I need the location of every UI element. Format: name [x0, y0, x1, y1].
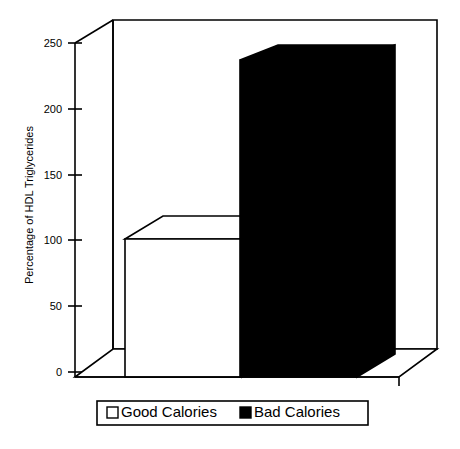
bar-bad-calories-side-face	[357, 45, 395, 377]
bar-good-calories-front-face	[125, 239, 242, 377]
y-tick-label-0: 0	[56, 366, 62, 378]
legend-item-good-calories[interactable]: Good Calories	[107, 403, 217, 420]
bar-chart-3d: 250 200 150 100 50 0 Percentage of HDL T…	[0, 0, 460, 449]
bar-bad-calories[interactable]	[240, 45, 395, 377]
y-axis-title: Percentage of HDL Triglycerides	[23, 126, 35, 284]
legend: Good Calories Bad Calories	[97, 401, 368, 425]
chart-figure: 250 200 150 100 50 0 Percentage of HDL T…	[0, 0, 460, 449]
y-tick-label-150: 150	[44, 169, 62, 181]
legend-swatch-good-calories-icon	[107, 407, 118, 418]
floor-front-edge-group	[75, 377, 399, 386]
legend-label-good-calories: Good Calories	[121, 403, 217, 420]
legend-label-bad-calories: Bad Calories	[254, 403, 340, 420]
y-tick-label-250: 250	[44, 37, 62, 49]
bar-bad-calories-front-face	[240, 60, 357, 377]
left-wall-top-edge	[75, 20, 113, 43]
y-tick-label-200: 200	[44, 103, 62, 115]
y-axis-tick-labels: 250 200 150 100 50 0	[44, 37, 62, 378]
y-axis-title-group: Percentage of HDL Triglycerides	[23, 126, 35, 284]
plot-left-wall	[75, 20, 113, 377]
y-tick-label-100: 100	[44, 234, 62, 246]
y-tick-label-50: 50	[50, 300, 62, 312]
legend-swatch-bad-calories-icon	[240, 407, 251, 418]
legend-item-bad-calories[interactable]: Bad Calories	[240, 403, 340, 420]
